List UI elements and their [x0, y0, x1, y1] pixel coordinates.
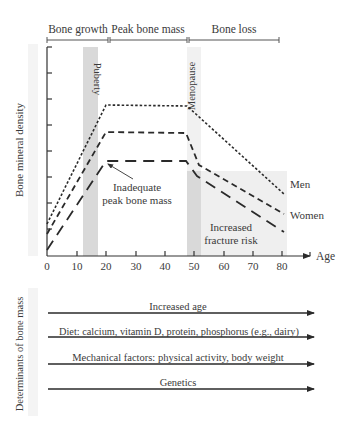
- men-label: Men: [290, 178, 311, 190]
- determinant-label-age: Increased age: [149, 301, 207, 312]
- x-tick-label: 30: [131, 260, 143, 272]
- determinants-title: Determinants of bone mass: [14, 297, 25, 412]
- phase-label-growth: Bone growth: [48, 23, 108, 36]
- inadequate-pointer-arrow: [108, 164, 133, 179]
- x-tick-label: 70: [248, 260, 260, 272]
- x-tick-label: 20: [101, 260, 113, 272]
- y-axis-label: Bone mineral density: [13, 102, 25, 197]
- fracture-risk-label-line1: Increased: [210, 221, 253, 233]
- x-tick-label: 60: [219, 260, 231, 272]
- inadequate-label-line1: Inadequate: [113, 181, 161, 193]
- determinant-label-diet: Diet: calcium, vitamin D, protein, phosp…: [59, 326, 299, 338]
- menopause-label: Menopause: [186, 61, 197, 110]
- phase-brackets: [47, 37, 279, 43]
- puberty-label: Puberty: [92, 63, 103, 96]
- x-tick-labels: 0 10 20 30 40 50 60 70 80: [44, 260, 288, 272]
- determinant-label-genetics: Genetics: [160, 377, 197, 388]
- y-label-background: [28, 44, 38, 256]
- x-tick-label: 80: [277, 260, 289, 272]
- x-axis-label: Age: [316, 250, 335, 263]
- determinant-label-mechanical: Mechanical factors: physical activity, b…: [72, 352, 284, 363]
- women-label: Women: [290, 209, 324, 221]
- inadequate-label-line2: peak bone mass: [102, 194, 172, 206]
- y-axis: [47, 47, 52, 256]
- determinants-label-background: [28, 288, 38, 416]
- x-tick-label: 10: [72, 260, 84, 272]
- x-tick-label: 0: [44, 260, 50, 272]
- bone-mass-figure: Bone growth Peak bone mass Bone loss 0 1…: [0, 0, 348, 431]
- fracture-risk-label-line2: fracture risk: [204, 234, 258, 246]
- phase-label-loss: Bone loss: [211, 23, 257, 35]
- menopause-band-lower: [187, 171, 201, 256]
- x-tick-label: 50: [189, 260, 201, 272]
- x-tick-label: 40: [160, 260, 172, 272]
- phase-label-peak: Peak bone mass: [111, 23, 185, 35]
